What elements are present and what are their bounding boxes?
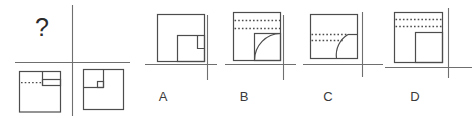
question-mark: ? xyxy=(35,15,49,40)
option-a-figure xyxy=(145,0,225,88)
option-b-figure xyxy=(225,0,300,88)
outer-square xyxy=(20,72,61,113)
question-matrix: ? xyxy=(0,0,140,118)
option-b-label: B xyxy=(233,89,255,105)
option-c[interactable]: C xyxy=(300,0,385,118)
quarter-arc xyxy=(336,35,348,59)
matrix-bottom-left-figure xyxy=(20,72,61,113)
matrix-bottom-right-figure xyxy=(84,70,124,110)
option-c-figure xyxy=(300,0,385,88)
option-d-figure xyxy=(385,0,472,88)
narrow-rectangle xyxy=(43,80,61,86)
notch-rectangle xyxy=(198,36,205,49)
option-b[interactable]: B xyxy=(225,0,300,118)
option-c-label: C xyxy=(317,89,339,105)
puzzle-canvas: ? A B xyxy=(0,0,472,118)
option-d[interactable]: D xyxy=(385,0,472,118)
option-d-label: D xyxy=(404,89,426,105)
option-a-label: A xyxy=(152,89,174,105)
outer-square xyxy=(311,15,358,59)
quarter-arc xyxy=(255,34,281,61)
small-junction-square xyxy=(98,82,104,88)
outer-square xyxy=(234,13,281,61)
matrix-figure-graphic xyxy=(0,0,140,118)
inner-square xyxy=(416,33,443,63)
option-a[interactable]: A xyxy=(145,0,225,118)
